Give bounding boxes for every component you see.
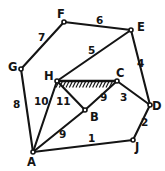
support-hatch-tick: [86, 82, 89, 88]
support-hatch-tick: [69, 82, 72, 88]
joint-E: [129, 28, 133, 32]
support-hatch-tick: [83, 82, 86, 88]
edge-GF: [21, 22, 64, 69]
edge-label-FE: 6: [96, 15, 103, 26]
edge-label-HB: 11: [56, 96, 71, 107]
truss-diagram-figure: ABCDEFGHJ12345678991011: [0, 0, 165, 171]
support-hatch-tick: [66, 82, 69, 88]
vertex-label-A: A: [27, 157, 36, 169]
support-hatch-tick: [79, 82, 82, 88]
support-hatch-tick: [89, 82, 92, 88]
edge-label-AB: 9: [59, 129, 66, 140]
support-hatch-tick: [63, 82, 66, 88]
vertex-label-B: B: [90, 112, 99, 124]
vertex-label-C: C: [116, 68, 124, 80]
support-hatch-tick: [96, 82, 99, 88]
edge-GA: [21, 69, 33, 152]
edge-label-CD: 3: [120, 92, 127, 103]
edge-label-AH: 10: [34, 96, 49, 107]
support-hatch-tick: [93, 82, 96, 88]
edge-label-GF: 7: [38, 32, 45, 43]
edge-label-JD: 2: [141, 117, 148, 128]
edge-label-DE: 4: [137, 58, 144, 69]
support-hatch-tick: [99, 82, 102, 88]
vertex-label-H: H: [44, 71, 54, 83]
edge-label-HE: 5: [88, 45, 95, 56]
vertex-label-J: J: [135, 142, 139, 154]
support-hatch-tick: [106, 82, 109, 88]
edge-label-BC: 9: [100, 92, 107, 103]
joint-G: [19, 67, 23, 71]
support-hatch-tick: [103, 82, 106, 88]
support-hatch-tick: [76, 82, 79, 88]
joint-A: [31, 150, 35, 154]
vertex-label-D: D: [152, 101, 162, 113]
edge-label-AJ: 1: [88, 133, 95, 144]
edge-AJ: [33, 140, 133, 152]
vertex-label-E: E: [137, 22, 145, 34]
joint-H: [55, 79, 59, 83]
joint-B: [83, 108, 87, 112]
vertex-label-F: F: [57, 9, 65, 21]
edge-label-GA: 8: [13, 99, 20, 110]
support-layer: [56, 81, 117, 88]
vertex-label-G: G: [8, 62, 17, 74]
support-hatch-tick: [73, 82, 76, 88]
